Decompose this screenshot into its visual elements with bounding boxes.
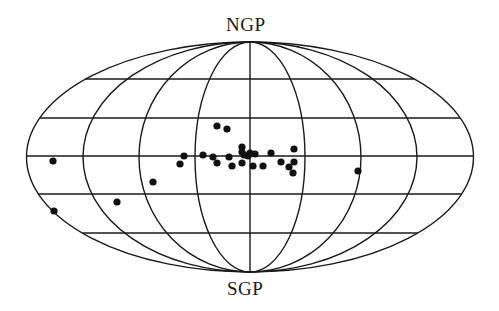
data-point — [176, 160, 183, 167]
data-point — [290, 158, 297, 165]
data-point — [49, 157, 56, 164]
data-point — [277, 158, 284, 165]
data-point — [290, 145, 297, 152]
data-point — [228, 162, 235, 169]
sky-map-plot — [0, 0, 499, 311]
data-point — [50, 207, 57, 214]
data-point — [354, 167, 361, 174]
data-point — [113, 198, 120, 205]
data-point — [259, 162, 266, 169]
data-point — [199, 151, 206, 158]
data-point — [289, 169, 296, 176]
data-point — [180, 152, 187, 159]
data-point — [209, 153, 216, 160]
data-point — [223, 125, 230, 132]
data-point — [213, 122, 220, 129]
data-point — [213, 159, 220, 166]
data-point — [249, 162, 256, 169]
data-point — [149, 178, 156, 185]
data-point — [267, 149, 274, 156]
data-point — [225, 153, 232, 160]
data-point — [238, 159, 245, 166]
data-point — [251, 150, 258, 157]
